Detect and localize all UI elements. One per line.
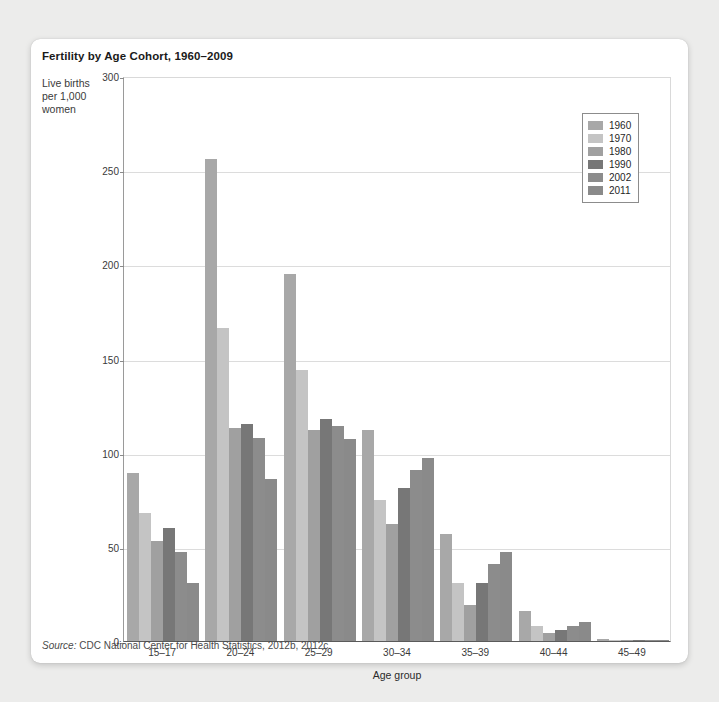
x-tick-label: 40–44 (514, 647, 592, 658)
source-text: CDC National Center for Health Statistic… (76, 640, 331, 651)
legend-swatch (588, 134, 603, 143)
bar (621, 640, 633, 641)
bar (151, 541, 163, 641)
page-title: Fertility by Age Cohort, 1960–2009 (42, 50, 233, 62)
bar-group (362, 76, 434, 641)
legend-swatch (588, 173, 603, 182)
bar (597, 639, 609, 641)
bar (205, 159, 217, 641)
bar (567, 626, 579, 641)
y-tick-mark (120, 455, 124, 456)
bar (440, 534, 452, 641)
bar (253, 438, 265, 641)
bar (308, 430, 320, 641)
bar (519, 611, 531, 641)
bar (127, 473, 139, 641)
legend-item: 1980 (588, 145, 631, 158)
x-tick-label: 35–39 (436, 647, 514, 658)
bar (488, 564, 500, 641)
bar (175, 552, 187, 641)
bar-group (127, 76, 199, 641)
bar (217, 328, 229, 641)
bar (362, 430, 374, 641)
bar (265, 479, 277, 641)
bar (633, 640, 645, 641)
y-tick-label: 100 (95, 448, 119, 459)
y-tick-mark (120, 78, 124, 79)
legend-label: 1970 (609, 132, 631, 145)
bar (422, 458, 434, 641)
legend-swatch (588, 121, 603, 130)
legend-label: 2002 (609, 171, 631, 184)
bar (579, 622, 591, 641)
chart-legend: 196019701980199020022011 (582, 113, 639, 203)
legend-label: 1980 (609, 145, 631, 158)
bar (531, 626, 543, 641)
legend-label: 2011 (609, 184, 631, 197)
y-tick-label: 300 (95, 72, 119, 83)
bar (500, 552, 512, 641)
bar (284, 274, 296, 641)
legend-label: 1960 (609, 119, 631, 132)
bar (555, 630, 567, 641)
x-tick-label: 45–49 (593, 647, 671, 658)
legend-item: 1960 (588, 119, 631, 132)
x-axis-title: Age group (123, 669, 671, 681)
bar (452, 583, 464, 641)
bar (543, 633, 555, 641)
legend-item: 2011 (588, 184, 631, 197)
bar (609, 640, 621, 641)
bar (229, 428, 241, 641)
y-tick-label: 250 (95, 166, 119, 177)
bar-group (284, 76, 356, 641)
y-tick-label: 200 (95, 260, 119, 271)
x-tick-label: 30–34 (358, 647, 436, 658)
bar (398, 488, 410, 641)
y-tick-mark (120, 172, 124, 173)
y-tick-label: 150 (95, 354, 119, 365)
bar (645, 640, 657, 641)
legend-item: 1990 (588, 158, 631, 171)
bar (163, 528, 175, 641)
bar (464, 605, 476, 641)
y-tick-mark (120, 266, 124, 267)
bar (241, 424, 253, 641)
y-axis-title: Live births per 1,000 women (42, 77, 94, 117)
source-label: Source: (42, 640, 76, 651)
bar (332, 426, 344, 641)
bar (296, 370, 308, 641)
legend-item: 1970 (588, 132, 631, 145)
legend-swatch (588, 186, 603, 195)
legend-item: 2002 (588, 171, 631, 184)
bar-group (440, 76, 512, 641)
bar (320, 419, 332, 641)
y-axis-tick-labels: 050100150200250300 (96, 77, 119, 642)
legend-label: 1990 (609, 158, 631, 171)
legend-swatch (588, 160, 603, 169)
source-note: Source: CDC National Center for Health S… (42, 640, 331, 651)
bar (410, 470, 422, 641)
chart-card: Fertility by Age Cohort, 1960–2009 Live … (31, 39, 688, 663)
bar (657, 640, 669, 641)
bar (187, 583, 199, 641)
bar (344, 439, 356, 641)
bar-group (519, 76, 591, 641)
legend-swatch (588, 147, 603, 156)
y-tick-mark (120, 549, 124, 550)
bar (374, 500, 386, 641)
bar (476, 583, 488, 641)
bar-group (205, 76, 277, 641)
y-tick-label: 50 (95, 542, 119, 553)
bar (139, 513, 151, 641)
bar (386, 524, 398, 641)
y-tick-mark (120, 361, 124, 362)
